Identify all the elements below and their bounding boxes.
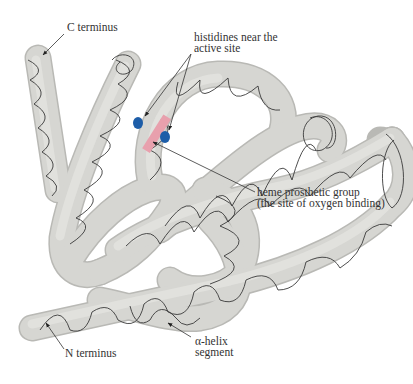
histidines-label: histidines near the active site (194, 32, 278, 54)
heme-label: heme prosthetic group (the site of oxyge… (257, 187, 385, 209)
c-terminus-label: C terminus (67, 22, 118, 33)
n-terminus-label: N terminus (65, 348, 116, 359)
alpha-helix-label: α-helix segment (195, 336, 233, 358)
